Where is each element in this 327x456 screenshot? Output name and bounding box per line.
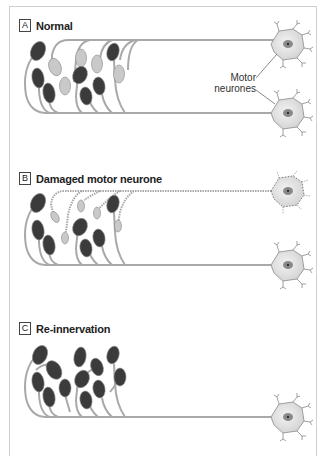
damaged-motor-neurone: [271, 171, 310, 213]
surviving-motor-neurone: [271, 393, 313, 441]
panel-c-diagram: [25, 343, 313, 441]
panel-a-diagram: [25, 20, 313, 137]
healthy-motor-neurone: [271, 241, 313, 289]
motor-neurone-1: [271, 20, 313, 68]
panel-b-diagram: [25, 171, 313, 289]
motor-neurone-2: [271, 89, 313, 137]
